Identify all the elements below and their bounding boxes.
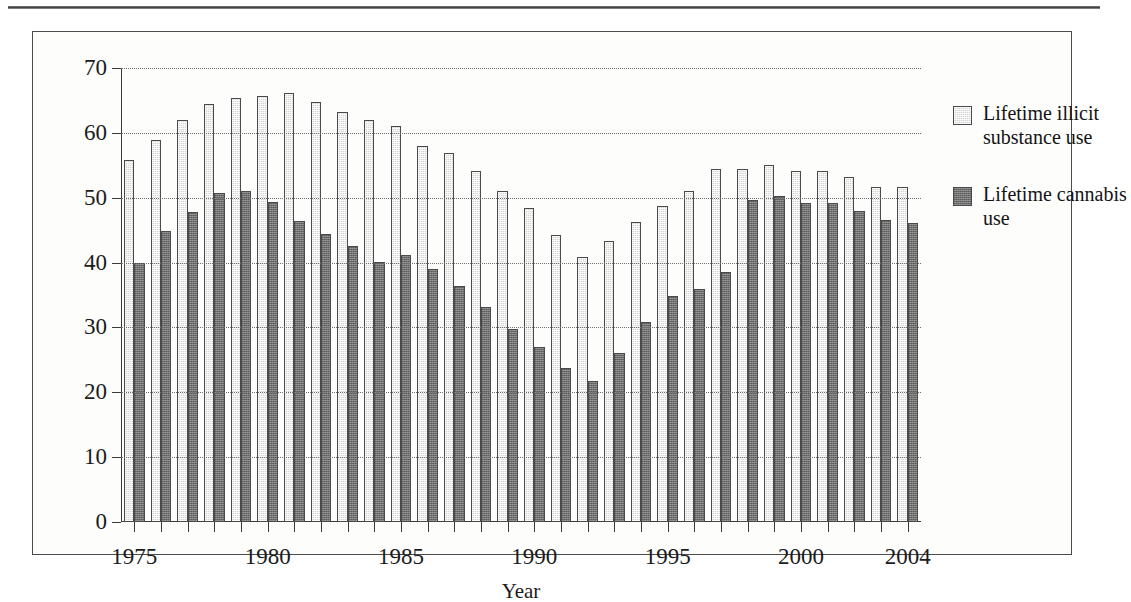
x-axis-tick-label: 1975 xyxy=(111,544,157,570)
bar-2002-illicit xyxy=(844,177,854,522)
x-axis-tick xyxy=(374,522,375,532)
legend-label-cannabis: Lifetime cannabis use xyxy=(983,183,1131,230)
figure-frame: 010203040506070 197519801985199019952000… xyxy=(32,31,1072,555)
x-axis-tick xyxy=(321,522,322,532)
y-axis-tick-label: 40 xyxy=(84,250,107,276)
x-axis-tick xyxy=(614,522,615,532)
bar-1998-illicit xyxy=(737,169,747,522)
bar-1995-cannabis xyxy=(668,296,678,522)
legend-item-illicit: Lifetime illicit substance use xyxy=(953,102,1131,149)
bar-1987-illicit xyxy=(444,153,454,522)
y-axis-tick-label: 60 xyxy=(84,120,107,146)
gridline xyxy=(121,327,921,328)
legend-swatch-icon-illicit xyxy=(953,106,972,125)
x-axis-tick xyxy=(588,522,589,532)
x-axis-tick-label: 1985 xyxy=(378,544,424,570)
bar-1986-illicit xyxy=(417,146,427,522)
bar-1999-cannabis xyxy=(774,196,784,522)
bar-1994-illicit xyxy=(631,222,641,522)
bar-1981-cannabis xyxy=(294,221,304,522)
x-axis-title: Year xyxy=(502,579,541,602)
bar-1985-cannabis xyxy=(401,255,411,522)
bar-2003-illicit xyxy=(871,187,881,522)
y-axis-tick xyxy=(112,198,121,199)
x-axis-tick xyxy=(481,522,482,532)
x-axis-tick xyxy=(641,522,642,532)
x-axis-tick xyxy=(214,522,215,532)
x-axis-tick-label: 1990 xyxy=(511,544,557,570)
x-axis-tick-label: 2000 xyxy=(778,544,824,570)
bar-1993-cannabis xyxy=(614,353,624,522)
bar-1983-illicit xyxy=(337,112,347,522)
bar-2004-illicit xyxy=(897,187,907,522)
y-axis-tick xyxy=(112,522,121,523)
y-axis-tick xyxy=(112,327,121,328)
gridline xyxy=(121,198,921,199)
bar-1994-cannabis xyxy=(641,322,651,522)
bar-2000-cannabis xyxy=(801,203,811,522)
bar-2003-cannabis xyxy=(881,220,891,522)
bar-1985-illicit xyxy=(391,126,401,522)
x-axis-tick xyxy=(828,522,829,532)
x-axis-tick xyxy=(161,522,162,532)
x-axis-tick xyxy=(801,522,802,532)
y-axis-tick-label: 50 xyxy=(84,185,107,211)
x-axis-tick xyxy=(188,522,189,532)
x-axis-tick-label: 2004 xyxy=(885,544,931,570)
bar-1975-illicit xyxy=(124,160,134,522)
gridline xyxy=(121,263,921,264)
x-axis-tick xyxy=(268,522,269,532)
chart-legend: Lifetime illicit substance use Lifetime … xyxy=(953,102,1131,264)
x-axis-tick xyxy=(561,522,562,532)
bar-1983-cannabis xyxy=(348,246,358,522)
x-axis-tick xyxy=(721,522,722,532)
x-axis-tick xyxy=(534,522,535,532)
bar-1979-illicit xyxy=(231,98,241,522)
bar-1982-cannabis xyxy=(321,234,331,522)
bar-1999-illicit xyxy=(764,165,774,522)
chart-canvas: 010203040506070 197519801985199019952000… xyxy=(33,32,1071,554)
gridline xyxy=(121,457,921,458)
gridline xyxy=(121,392,921,393)
gridline xyxy=(121,68,921,69)
x-axis-tick xyxy=(908,522,909,532)
bar-1991-illicit xyxy=(551,235,561,522)
y-axis-tick-label: 0 xyxy=(96,509,108,535)
bar-1992-cannabis xyxy=(588,381,598,522)
bar-1997-cannabis xyxy=(721,272,731,522)
x-axis-tick-label: 1995 xyxy=(645,544,691,570)
bar-1977-cannabis xyxy=(188,212,198,522)
bar-1996-illicit xyxy=(684,191,694,522)
x-axis-tick xyxy=(348,522,349,532)
bar-1996-cannabis xyxy=(694,289,704,522)
bar-2004-cannabis xyxy=(908,223,918,522)
legend-swatch-icon-cannabis xyxy=(953,187,972,206)
x-axis-tick xyxy=(854,522,855,532)
y-axis-tick-label: 70 xyxy=(84,55,107,81)
bar-1988-cannabis xyxy=(481,307,491,522)
plot-area: 010203040506070 197519801985199019952000… xyxy=(121,68,921,522)
x-axis-tick xyxy=(294,522,295,532)
legend-label-illicit: Lifetime illicit substance use xyxy=(983,102,1131,149)
bar-1978-cannabis xyxy=(214,193,224,522)
x-axis-tick xyxy=(454,522,455,532)
bar-1989-cannabis xyxy=(508,329,518,522)
y-axis-tick xyxy=(112,263,121,264)
y-axis-tick xyxy=(112,68,121,69)
page-top-rule xyxy=(8,6,1100,9)
y-axis-tick-label: 30 xyxy=(84,314,107,340)
bar-1995-illicit xyxy=(657,206,667,523)
x-axis-tick xyxy=(881,522,882,532)
y-axis-tick xyxy=(112,457,121,458)
bar-1998-cannabis xyxy=(748,200,758,522)
bar-1993-illicit xyxy=(604,241,614,522)
bar-1982-illicit xyxy=(311,102,321,522)
bars-layer xyxy=(121,68,921,522)
bar-1988-illicit xyxy=(471,171,481,522)
y-axis-tick-label: 20 xyxy=(84,379,107,405)
bar-1979-cannabis xyxy=(241,191,251,522)
bar-1980-cannabis xyxy=(268,202,278,522)
x-axis-tick xyxy=(748,522,749,532)
legend-item-cannabis: Lifetime cannabis use xyxy=(953,183,1131,230)
bar-1978-illicit xyxy=(204,104,214,522)
